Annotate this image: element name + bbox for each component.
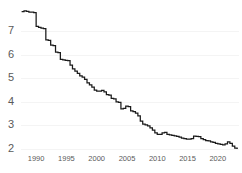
y-tick-label: 4 <box>8 95 14 107</box>
x-tick-label: 1995 <box>58 154 75 163</box>
line-chart: 234567 1990199520002005201020152020 <box>0 0 242 173</box>
x-tick-label: 2015 <box>179 154 196 163</box>
x-tick-label: 2010 <box>149 154 166 163</box>
y-tick-label: 5 <box>8 71 14 83</box>
x-tick-label: 2005 <box>119 154 136 163</box>
y-tick-label: 7 <box>8 24 14 36</box>
x-tick-label: 2020 <box>209 154 226 163</box>
x-tick-label: 2000 <box>88 154 105 163</box>
y-tick-label: 2 <box>8 142 14 154</box>
y-tick-label: 6 <box>8 48 14 60</box>
chart-container: 234567 1990199520002005201020152020 <box>0 0 242 173</box>
y-tick-label: 3 <box>8 118 14 130</box>
x-tick-label: 1990 <box>28 154 45 163</box>
